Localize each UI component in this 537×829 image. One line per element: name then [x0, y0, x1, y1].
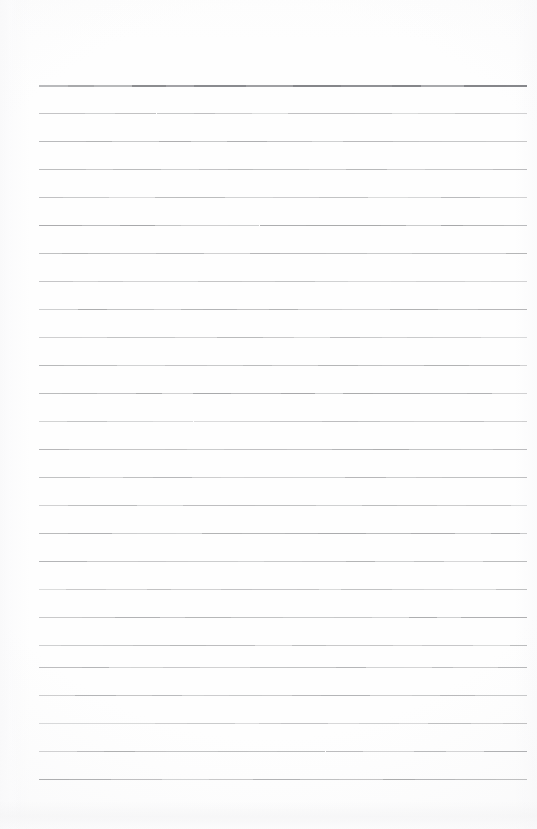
rule-line: [39, 695, 527, 696]
rule-line: [39, 589, 527, 590]
rule-line: [39, 449, 527, 450]
rule-segment: [370, 695, 412, 696]
rule-segment: [267, 141, 312, 142]
rule-segment: [253, 779, 300, 780]
rule-line: [39, 197, 527, 198]
rule-segment: [414, 421, 459, 422]
rule-segment: [253, 169, 277, 170]
rule-segment: [391, 281, 416, 282]
rule-segment: [415, 779, 455, 780]
rule-segment: [137, 505, 183, 506]
rule-segment: [367, 253, 411, 254]
rule-segment: [255, 505, 290, 506]
rule-segment: [39, 645, 61, 646]
rule-segment: [39, 449, 69, 450]
rule-segment: [514, 197, 527, 198]
rule-segment: [131, 667, 163, 668]
rule-segment: [224, 449, 250, 450]
rule-segment: [218, 751, 248, 752]
rule-segment: [326, 253, 368, 254]
rule-segment: [69, 779, 111, 780]
rule-segment: [250, 667, 287, 668]
rule-segment: [332, 113, 355, 114]
rule-segment: [62, 253, 89, 254]
rule-line: [39, 617, 527, 618]
rule-segment: [116, 695, 152, 696]
rule-segment: [485, 477, 523, 478]
rule-segment: [39, 505, 68, 506]
rule-segment: [39, 779, 69, 780]
rule-segment: [393, 141, 419, 142]
rule-segment: [273, 197, 319, 198]
rule-segment: [460, 421, 484, 422]
rule-segment: [392, 85, 420, 87]
rule-segment: [306, 225, 350, 226]
rule-segment: [87, 561, 138, 562]
rule-segment: [315, 393, 343, 394]
rule-segment: [312, 141, 343, 142]
rule-segment: [260, 225, 307, 226]
rule-segment: [238, 561, 264, 562]
rule-segment: [392, 113, 418, 114]
rule-segment: [159, 141, 191, 142]
rule-segment: [243, 365, 272, 366]
rule-segment: [437, 617, 461, 618]
rule-segment: [120, 225, 155, 226]
rule-segment: [68, 505, 90, 506]
rule-segment: [155, 723, 187, 724]
rule-segment: [85, 113, 115, 114]
rule-segment: [359, 723, 399, 724]
rule-segment: [341, 85, 392, 87]
rule-segment: [455, 533, 491, 534]
scanned-page: [0, 0, 537, 829]
rule-segment: [285, 533, 318, 534]
rule-segment: [520, 533, 527, 534]
rule-line: [39, 751, 527, 752]
rule-segment: [294, 337, 330, 338]
rule-segment: [422, 645, 473, 646]
rule-segment: [392, 589, 424, 590]
rule-segment: [230, 421, 270, 422]
rule-segment: [414, 561, 444, 562]
rule-segment: [68, 85, 94, 87]
rule-segment: [467, 393, 492, 394]
rule-segment: [204, 253, 250, 254]
rule-segment: [188, 561, 238, 562]
rule-segment: [135, 751, 165, 752]
rule-segment: [399, 723, 428, 724]
rule-segment: [350, 225, 381, 226]
rule-segment: [39, 561, 87, 562]
ruled-lines-group: [0, 0, 537, 829]
rule-line: [39, 169, 527, 170]
rule-line: [39, 477, 527, 478]
rule-segment: [104, 751, 135, 752]
rule-segment: [75, 695, 115, 696]
rule-segment: [207, 365, 243, 366]
rule-segment: [39, 197, 63, 198]
rule-segment: [425, 169, 447, 170]
rule-segment: [471, 723, 502, 724]
rule-segment: [39, 393, 62, 394]
rule-segment: [409, 617, 437, 618]
rule-segment: [346, 169, 387, 170]
rule-segment: [276, 169, 309, 170]
rule-line: [39, 723, 527, 724]
rule-segment: [221, 477, 244, 478]
rule-segment: [316, 505, 362, 506]
rule-segment: [496, 779, 527, 780]
rule-segment: [373, 449, 409, 450]
rule-segment: [390, 309, 438, 310]
rule-segment: [39, 365, 64, 366]
rule-segment: [322, 421, 358, 422]
rule-segment: [133, 645, 171, 646]
rule-segment: [414, 751, 446, 752]
rule-segment: [478, 309, 505, 310]
rule-segment: [491, 281, 527, 282]
rule-segment: [61, 645, 103, 646]
rule-segment: [191, 141, 227, 142]
rule-segment: [319, 197, 368, 198]
rule-line: [39, 645, 527, 646]
rule-segment: [292, 695, 321, 696]
rule-segment: [107, 337, 130, 338]
rule-segment: [447, 169, 494, 170]
